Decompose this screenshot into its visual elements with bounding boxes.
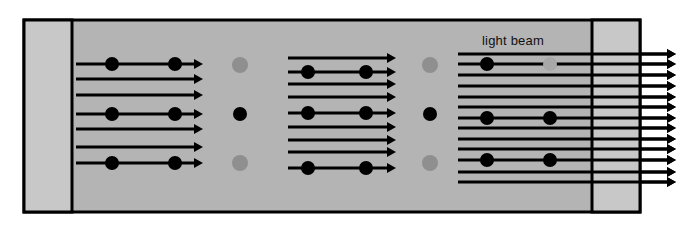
group-3-particle-7-1 — [480, 111, 494, 125]
group-2-particle-2-2 — [359, 65, 373, 79]
gap-1-middle — [233, 107, 247, 121]
group-1-particle-7-2 — [168, 156, 182, 170]
group-2-particle-9-1 — [301, 161, 315, 175]
group-3-particle-7-2 — [543, 111, 557, 125]
group-1-particle-7-1 — [105, 156, 119, 170]
group-2-particle-9-2 — [359, 161, 373, 175]
group-3-particle-11-1 — [480, 153, 494, 167]
light-beam-label: light beam — [482, 33, 544, 48]
group-3-particle-11-2 — [543, 153, 557, 167]
left-end-block — [24, 20, 72, 212]
group-1-particle-4-2 — [168, 107, 182, 121]
group-2-particle-5-2 — [359, 106, 373, 120]
group-1-particle-1-2 — [168, 57, 182, 71]
gap-2-bottom — [422, 155, 438, 171]
group-1-particle-1-1 — [105, 57, 119, 71]
gap-2-top — [422, 57, 438, 73]
gap-1-top — [232, 57, 248, 73]
light-beam-figure: light beam — [0, 0, 690, 229]
group-2-particle-2-1 — [301, 65, 315, 79]
group-3-particle-2-2 — [543, 57, 557, 71]
group-3-particle-2-1 — [480, 57, 494, 71]
group-1-particle-4-1 — [105, 107, 119, 121]
diagram-canvas: light beam — [0, 0, 690, 229]
gap-2-middle — [423, 107, 437, 121]
group-2-particle-5-1 — [301, 106, 315, 120]
gap-1-bottom — [232, 155, 248, 171]
